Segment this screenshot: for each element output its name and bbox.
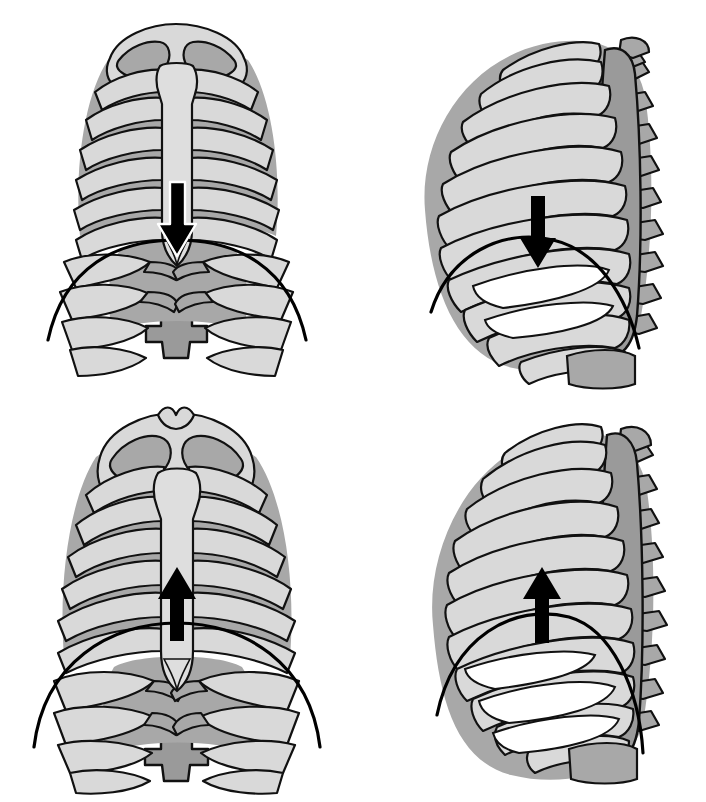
costal-base-block [569, 743, 637, 784]
costal-base-block [567, 350, 635, 389]
panel-lateral-inspiration: rib cage moves up [353, 401, 706, 802]
panel-anterior-inspiration: sternum moves up and forward [0, 401, 353, 802]
respiration-figure: Rib cage movement during respiration Fou… [0, 0, 706, 802]
panel-anterior-expiration: sternum moves down [0, 0, 353, 401]
panel-lateral-expiration: rib cage moves down [353, 0, 706, 401]
